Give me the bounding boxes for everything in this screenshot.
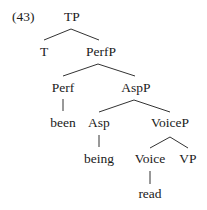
tree-node-perfp: PerfP (86, 44, 116, 59)
tree-node-read: read (138, 186, 161, 201)
tree-edge-perfp-aspp (98, 64, 135, 76)
tree-node-tp: TP (64, 9, 80, 24)
tree-node-perf: Perf (52, 80, 75, 95)
tree-node-voicep: VoiceP (151, 115, 189, 130)
tree-edges (44, 29, 188, 184)
tree-node-t: T (40, 44, 49, 59)
example-number: (43) (12, 9, 35, 24)
tree-node-voice: Voice (135, 151, 166, 166)
tree-node-being: being (84, 151, 114, 166)
tree-edge-voicep-vp (170, 137, 188, 148)
tree-edge-aspp-asp (99, 100, 134, 112)
tree-node-vp: VP (179, 151, 196, 166)
tree-node-asp: Asp (88, 115, 110, 130)
syntax-tree: (43) TPTPerfPPerfAspPbeenAspVoicePbeingV… (0, 0, 207, 210)
tree-node-been: been (50, 115, 76, 130)
tree-edge-voicep-voice (150, 137, 170, 148)
tree-edge-tp-perfp (71, 29, 99, 40)
tree-edge-aspp-voicep (134, 100, 170, 112)
tree-node-aspp: AspP (121, 80, 150, 95)
tree-edge-tp-t (44, 29, 71, 40)
tree-edge-perfp-perf (63, 64, 98, 76)
